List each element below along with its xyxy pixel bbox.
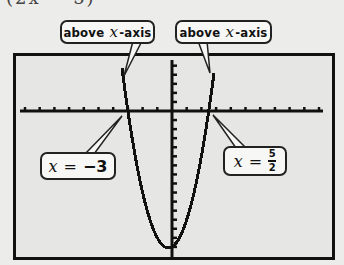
callout-right-zero: x= 5 2: [223, 146, 287, 176]
callout-variable: x: [49, 157, 58, 176]
callout-pointers: [85, 41, 246, 154]
callout-equals: =: [64, 157, 77, 176]
callout-variable: x: [226, 23, 235, 41]
callout-left-zero: x=−3: [40, 152, 116, 180]
fraction-numerator: 5: [269, 149, 276, 159]
callout-variable: x: [110, 23, 119, 41]
callout-variable: x: [234, 152, 243, 171]
callout-text: above: [179, 25, 220, 40]
graph-plot: [0, 0, 344, 265]
callout-text: above: [63, 25, 104, 40]
callout-right-above-axis: above x-axis: [175, 20, 272, 44]
callout-left-above-axis: above x-axis: [60, 20, 155, 44]
callout-text: -axis: [119, 25, 151, 40]
fraction-value: 5 2: [268, 149, 276, 173]
parabola-curve: [122, 68, 214, 248]
callout-value: −3: [83, 157, 108, 176]
fraction-denominator: 2: [269, 163, 276, 173]
callout-equals: =: [249, 152, 262, 171]
callout-text: -axis: [235, 25, 267, 40]
